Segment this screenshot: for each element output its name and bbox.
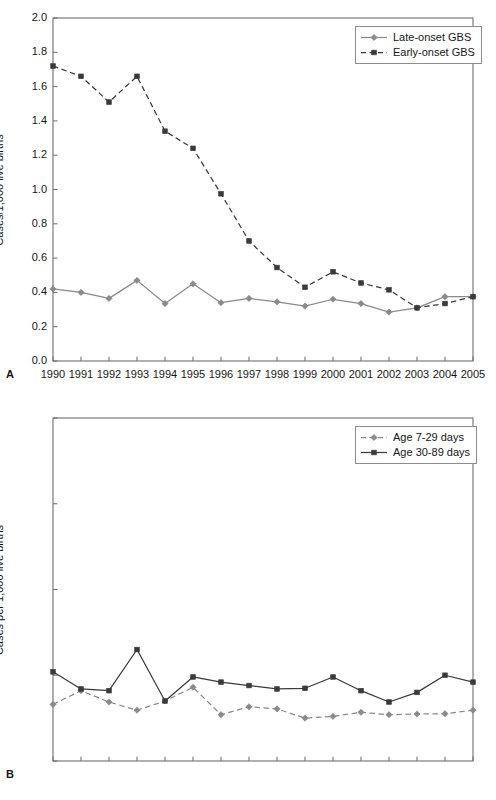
- y-tick-label: 0.6: [7, 251, 47, 263]
- x-tick-label: 1999: [290, 368, 320, 380]
- x-tick-label: 2002: [374, 368, 404, 380]
- x-tick-label: 1997: [234, 368, 264, 380]
- legend-item: Late-onset GBS: [360, 30, 475, 45]
- panel-a-y-axis-title: Cases/1,000 live births: [0, 134, 5, 245]
- x-tick-label: 1998: [262, 368, 292, 380]
- y-tick-label: 0.0: [7, 354, 47, 366]
- legend-key-square-icon: [360, 47, 388, 58]
- panel-a: A Cases/1,000 live births Late-onset GBS…: [0, 0, 496, 400]
- x-tick-label: 1993: [122, 368, 152, 380]
- y-tick-label: 1.4: [7, 114, 47, 126]
- x-tick-label: 1991: [66, 368, 96, 380]
- legend-key-diamond-icon: [360, 32, 388, 43]
- x-tick-label: 2001: [346, 368, 376, 380]
- y-tick-label: 1.6: [7, 80, 47, 92]
- x-tick-label: 2004: [430, 368, 460, 380]
- panel-b: B Cases per 1,000 live births Age 7-29 d…: [0, 400, 496, 800]
- x-tick-label: 1995: [178, 368, 208, 380]
- legend-key-square-icon: [360, 447, 388, 458]
- y-tick-label: 1.2: [7, 148, 47, 160]
- legend-item: Age 7-29 days: [360, 430, 470, 445]
- panel-b-legend: Age 7-29 daysAge 30-89 days: [355, 426, 477, 464]
- x-tick-label: 2000: [318, 368, 348, 380]
- panel-a-letter: A: [6, 368, 14, 380]
- figure-container: A Cases/1,000 live births Late-onset GBS…: [0, 0, 496, 800]
- y-tick-label: 1.0: [7, 183, 47, 195]
- y-tick-label: 0.4: [7, 285, 47, 297]
- legend-item: Age 30-89 days: [360, 445, 470, 460]
- panel-b-y-axis-title: Cases per 1,000 live births: [0, 524, 5, 654]
- y-tick-label: 2.0: [7, 11, 47, 23]
- x-tick-label: 2005: [458, 368, 488, 380]
- x-tick-label: 1994: [150, 368, 180, 380]
- y-tick-label: 0.2: [7, 320, 47, 332]
- legend-label: Age 7-29 days: [393, 432, 464, 443]
- legend-label: Age 30-89 days: [393, 447, 470, 458]
- y-tick-label: 0.8: [7, 217, 47, 229]
- legend-label: Early-onset GBS: [393, 47, 475, 58]
- x-tick-label: 1990: [38, 368, 68, 380]
- panel-a-legend: Late-onset GBSEarly-onset GBS: [355, 26, 482, 64]
- y-tick-label: 1.8: [7, 45, 47, 57]
- legend-key-diamond-icon: [360, 432, 388, 443]
- legend-item: Early-onset GBS: [360, 45, 475, 60]
- legend-label: Late-onset GBS: [393, 32, 471, 43]
- x-tick-label: 1992: [94, 368, 124, 380]
- x-tick-label: 2003: [402, 368, 432, 380]
- panel-b-letter: B: [6, 768, 14, 780]
- x-tick-label: 1996: [206, 368, 236, 380]
